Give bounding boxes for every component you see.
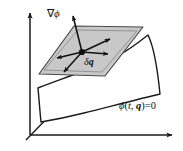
diagram-canvas <box>0 0 183 151</box>
nabla-icon: ∇ <box>47 7 54 19</box>
gradient-label: ∇ϕ <box>47 8 60 19</box>
virtual-displacement-label: δq <box>84 57 94 67</box>
gradient-phi: ϕ <box>54 7 60 19</box>
constraint-equation-label: ϕ(t, q)=0 <box>119 101 156 112</box>
constraint-surface-diagram: ∇ϕ δq ϕ(t, q)=0 <box>0 0 183 151</box>
q-vector-symbol: q <box>89 56 94 67</box>
constraint-zero: 0 <box>151 100 156 111</box>
tangency-point <box>79 49 85 55</box>
